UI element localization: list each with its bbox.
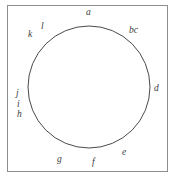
point-label-i: i bbox=[17, 100, 20, 110]
point-label-l: l bbox=[41, 22, 44, 32]
figure-canvas: a bc d e f g h i j k l bbox=[0, 0, 177, 183]
point-label-k: k bbox=[28, 30, 32, 40]
point-label-h: h bbox=[17, 110, 22, 120]
point-label-f: f bbox=[92, 158, 95, 168]
point-label-bc: bc bbox=[129, 26, 138, 36]
circle-diagram-svg bbox=[0, 0, 177, 183]
point-label-d: d bbox=[154, 84, 159, 94]
point-label-j: j bbox=[16, 89, 19, 99]
point-label-a: a bbox=[86, 8, 91, 18]
point-label-g: g bbox=[57, 155, 62, 165]
main-circle bbox=[28, 26, 150, 148]
point-label-e: e bbox=[122, 148, 126, 158]
